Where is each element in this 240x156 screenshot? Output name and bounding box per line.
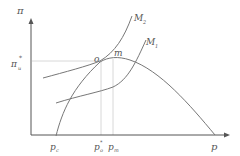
y-axis-arrow-icon bbox=[29, 18, 34, 24]
pi-star-sup: * bbox=[19, 54, 22, 61]
profit-price-diagram: π p π * u M 2 M 1 o m p c p * o p m bbox=[0, 0, 240, 156]
m2-sub: 2 bbox=[142, 19, 146, 25]
x-axis-label: p bbox=[211, 141, 218, 152]
pc-sub: c bbox=[56, 147, 59, 153]
x-axis-arrow-icon bbox=[224, 133, 230, 138]
po-sup: * bbox=[100, 139, 103, 145]
pi-star-sub: u bbox=[18, 65, 21, 71]
m2-curve bbox=[43, 16, 132, 78]
m1-sub: 1 bbox=[155, 43, 158, 49]
pi-star-label: π bbox=[10, 59, 18, 69]
point-o-label: o bbox=[94, 54, 100, 64]
point-m-label: m bbox=[114, 48, 123, 58]
po-sub: o bbox=[100, 147, 103, 153]
y-axis-label: π bbox=[16, 5, 24, 16]
pm-sub: m bbox=[114, 147, 119, 153]
